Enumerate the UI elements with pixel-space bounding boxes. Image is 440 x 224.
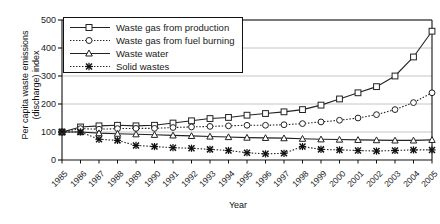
legend-symbol-open-circle — [68, 34, 112, 47]
legend-label: Waste gas from fuel burning — [112, 34, 234, 47]
legend-label: Waste water — [112, 47, 168, 60]
legend-symbol-open-triangle — [68, 47, 112, 60]
chart-legend: Waste gas from production Waste gas from… — [63, 17, 243, 73]
legend-label: Solid wastes — [112, 60, 169, 73]
legend-item-waste-gas-production: Waste gas from production — [68, 21, 238, 34]
legend-symbol-cross-x — [68, 60, 112, 73]
legend-label: Waste gas from production — [112, 21, 229, 34]
chart-container: Per capita waste emissions (discharge) i… — [0, 0, 440, 224]
legend-item-waste-water: Waste water — [68, 47, 238, 60]
legend-item-solid-wastes: Solid wastes — [68, 60, 238, 73]
legend-item-waste-gas-fuel-burning: Waste gas from fuel burning — [68, 34, 238, 47]
legend-symbol-open-square — [68, 21, 112, 34]
